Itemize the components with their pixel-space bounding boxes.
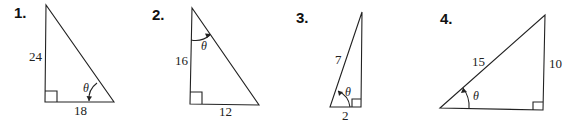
side-label-1-vertical: 24	[29, 49, 42, 65]
triangle-2	[190, 8, 259, 105]
problem-number-1: 1.	[14, 4, 27, 21]
side-label-4-vertical: 10	[549, 56, 562, 72]
problem-number-3: 3.	[296, 9, 309, 26]
triangle-4	[440, 15, 545, 110]
side-label-3-hypotenuse: 7	[335, 52, 342, 68]
side-label-4-hypotenuse: 15	[472, 54, 485, 70]
theta-label-2: θ	[201, 39, 207, 54]
side-label-1-horizontal: 18	[74, 103, 87, 119]
side-label-2-vertical: 16	[175, 53, 188, 69]
side-label-2-horizontal: 12	[219, 104, 232, 120]
right-triangle-exercises: 1. 2. 3. 4. 24 18 θ 16 12 θ 7 2 θ 15 10 …	[0, 0, 574, 127]
theta-label-1: θ	[83, 81, 89, 96]
theta-label-4: θ	[473, 89, 479, 104]
triangle-1	[45, 5, 114, 102]
problem-number-2: 2.	[152, 6, 165, 23]
theta-label-3: θ	[345, 85, 351, 100]
problem-number-4: 4.	[440, 10, 453, 27]
side-label-3-horizontal: 2	[342, 108, 349, 124]
